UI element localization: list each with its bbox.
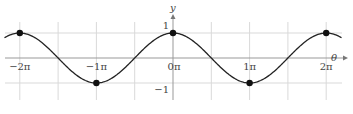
x-tick-label: 0π [168,61,181,72]
extremum-marker [323,30,329,36]
extremum-marker [93,80,99,86]
x-axis-label: θ [331,52,337,63]
x-tick-label: −1π [86,61,108,72]
y-tick-label: 1 [163,20,169,31]
x-tick-label: 1π [243,61,256,72]
extremum-marker [170,30,176,36]
extremum-marker [246,80,252,86]
extremum-marker [17,30,23,36]
x-axis-arrow-icon [343,56,348,61]
y-tick-label: −1 [154,84,169,95]
cosine-chart: −2π−1π0π1π2π 1−1 θ y [0,0,353,114]
x-tick-label: −2π [9,61,31,72]
y-axis-arrow-icon [171,14,176,19]
y-axis-label: y [169,2,176,13]
